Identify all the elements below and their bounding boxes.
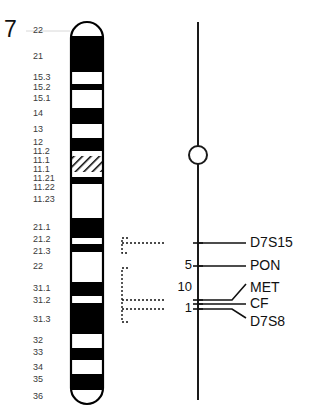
chromosome-band [69, 36, 105, 72]
band-label: 15.3 [33, 73, 51, 82]
chromosome-band-group [69, 22, 105, 404]
band-label: 15.2 [33, 83, 51, 92]
band-label: 34 [33, 363, 43, 372]
chromosome-band [69, 360, 105, 374]
chromosome-band [69, 84, 105, 90]
band-label: 21.1 [33, 223, 51, 232]
chromosome-band [69, 348, 105, 360]
marker-label-pon: PON [250, 258, 280, 272]
region-bracket [122, 268, 128, 322]
chromosome-band [69, 138, 105, 151]
marker-label-met: MET [250, 280, 280, 294]
centromere-circle-icon [189, 146, 207, 164]
band-label: 21.2 [33, 235, 51, 244]
genetic-distance-label: 10 [166, 280, 192, 293]
band-label: 14 [33, 109, 43, 118]
chromosome-band [69, 124, 105, 138]
chromosome-band [69, 151, 105, 156]
dashed-bracket-group [122, 238, 164, 322]
marker-label-cf: CF [250, 296, 269, 310]
band-label: 36 [33, 392, 43, 401]
chromosome-band [69, 296, 105, 303]
band-label: 21 [33, 52, 43, 61]
band-label: 22 [33, 262, 43, 271]
band-label: 11.22 [33, 183, 55, 192]
genetic-distance-label: 1 [166, 301, 192, 314]
chromosome-band [69, 90, 105, 108]
chromosome-band [69, 303, 105, 334]
band-label: 11.23 [33, 195, 55, 204]
band-label: 22 [33, 26, 43, 35]
region-bracket [122, 238, 128, 253]
marker-connector-met [198, 284, 246, 300]
chromosome-band [69, 238, 105, 244]
chromosome-band [69, 184, 105, 218]
band-label: 31.3 [33, 315, 51, 324]
band-label: 32 [33, 336, 43, 345]
ideogram-svg [0, 0, 314, 418]
marker-connector-d7s8 [198, 309, 246, 318]
chromosome-band [69, 108, 105, 124]
band-label: 21.3 [33, 247, 51, 256]
chromosome-band [69, 177, 105, 184]
band-label: 13 [33, 125, 43, 134]
chromosome-band [69, 172, 105, 177]
chromosome-band [69, 244, 105, 252]
chromosome-band [69, 252, 105, 282]
band-label: 31.2 [33, 296, 51, 305]
chromosome-band [69, 72, 105, 84]
band-label: 15.1 [33, 94, 51, 103]
band-label: 31.1 [33, 284, 51, 293]
chromosome-band [69, 282, 105, 296]
marker-connector-group [193, 243, 246, 318]
chromosome-ideogram-figure: 7 222115.315.215.114131211.211.111.111.2… [0, 0, 314, 418]
band-label: 33 [33, 348, 43, 357]
chromosome-band [69, 334, 105, 348]
genetic-distance-label: 5 [166, 258, 192, 271]
band-label: 35 [33, 375, 43, 384]
marker-label-d7s15: D7S15 [250, 235, 293, 249]
chromosome-band [69, 156, 105, 172]
chromosome-band [69, 374, 105, 390]
marker-label-d7s8: D7S8 [250, 314, 285, 328]
chromosome-band [69, 218, 105, 238]
